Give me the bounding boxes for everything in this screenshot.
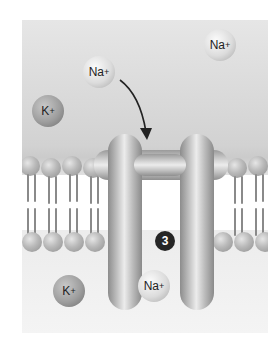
curved-arrow-icon bbox=[22, 20, 268, 333]
diagram-frame: 3 Na+ Na+ K+ K+ Na+ bbox=[22, 20, 268, 333]
